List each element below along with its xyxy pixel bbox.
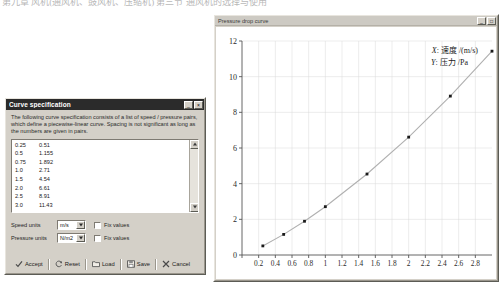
- pressure-drop-chart: 0246810120.20.40.60.811.21.41.61.822.22.…: [216, 27, 500, 283]
- y-axis-tick-label: 4: [233, 180, 237, 189]
- maximize-icon: □: [488, 18, 495, 24]
- pressure-fix-values-checkbox[interactable]: [94, 235, 101, 242]
- folder-icon: [92, 260, 100, 268]
- curve-specification-dialog: Curve specification _ × The following cu…: [4, 97, 206, 275]
- speed-pressure-list[interactable]: 0.250.510.51.1550.751.8921.02.711.54.542…: [11, 139, 199, 213]
- dialog-titlebar-buttons: _ ×: [184, 101, 203, 109]
- pressure-fix-values-wrap[interactable]: Fix values: [94, 235, 129, 242]
- chevron-up-icon: [193, 143, 197, 146]
- dialog-titlebar[interactable]: Curve specification _ ×: [6, 99, 204, 110]
- x-axis-tick-label: 1: [323, 259, 327, 268]
- dialog-body: The following curve specification consis…: [6, 110, 204, 273]
- cancel-button[interactable]: Cancel: [158, 258, 194, 270]
- pressure-drop-curve-window: Pressure drop curve _ □ 0246810120.20.40…: [213, 14, 499, 282]
- dialog-description: The following curve specification consis…: [11, 114, 199, 136]
- minimize-icon: _: [185, 102, 192, 108]
- pressure-units-row: Pressure units N/m2 Fix values: [11, 233, 199, 244]
- data-point-marker: [303, 220, 306, 223]
- pair-speed-value: 0.25: [15, 141, 39, 150]
- check-icon: [15, 260, 23, 268]
- chart-title: Pressure drop curve: [218, 18, 477, 24]
- list-item[interactable]: 1.02.71: [15, 166, 189, 175]
- data-point-marker: [366, 173, 369, 176]
- minimize-button[interactable]: _: [184, 101, 193, 109]
- y-axis-tick-label: 0: [233, 251, 237, 260]
- speed-units-row: Speed units m/s Fix values: [11, 220, 199, 231]
- x-axis-tick-label: 0.4: [271, 259, 281, 268]
- x-axis-tick-label: 1.6: [371, 259, 381, 268]
- pair-speed-value: 3.0: [15, 201, 39, 210]
- pair-pressure-value: 8.91: [39, 192, 79, 201]
- speed-pressure-rows: 0.250.510.51.1550.751.8921.02.711.54.542…: [12, 140, 189, 212]
- floppy-disk-icon: [127, 260, 135, 268]
- chevron-down-icon: [193, 206, 197, 209]
- list-item[interactable]: 0.250.51: [15, 141, 189, 150]
- pair-speed-value: 1.5: [15, 175, 39, 184]
- pressure-units-select[interactable]: N/m2: [57, 233, 86, 243]
- pair-speed-value: 1.0: [15, 166, 39, 175]
- x-axis-tick-label: 0.6: [287, 259, 297, 268]
- units-block: Speed units m/s Fix values Pressure unit…: [11, 220, 199, 244]
- x-axis-tick-label: 2.4: [437, 259, 447, 268]
- data-point-marker: [282, 233, 285, 236]
- curve-line: [263, 51, 492, 246]
- x-axis-tick-label: 0.8: [304, 259, 314, 268]
- speed-fix-values-wrap[interactable]: Fix values: [94, 222, 129, 229]
- close-button[interactable]: ×: [194, 101, 203, 109]
- save-button[interactable]: Save: [123, 258, 154, 270]
- speed-units-label: Speed units: [11, 222, 57, 228]
- list-scrollbar[interactable]: [189, 140, 198, 212]
- scroll-up-button[interactable]: [190, 140, 199, 149]
- data-point-marker: [491, 50, 494, 53]
- speed-units-select[interactable]: m/s: [57, 220, 86, 230]
- list-item[interactable]: 0.51.155: [15, 149, 189, 158]
- minimize-icon: _: [478, 18, 485, 24]
- accept-label: Accept: [25, 261, 43, 267]
- speed-fix-values-label: Fix values: [104, 222, 129, 228]
- chart-annotation-y: Y: 压力 /Pa: [431, 57, 468, 67]
- data-point-marker: [407, 136, 410, 139]
- speed-units-dropdown-button[interactable]: [76, 221, 85, 229]
- chart-titlebar[interactable]: Pressure drop curve _ □: [215, 16, 497, 26]
- page-header-scan-band: 第九章 风机(通风机、鼓风机、压缩机) 第三节 通风机的选择与使用: [0, 0, 503, 9]
- y-axis-tick-label: 6: [233, 144, 237, 153]
- speed-units-value: m/s: [58, 222, 76, 228]
- chart-titlebar-buttons: _ □: [477, 17, 496, 25]
- chart-annotation-x: X: 速度 /(m/s): [431, 45, 479, 55]
- y-axis-tick-label: 2: [233, 215, 237, 224]
- divider: [48, 259, 50, 270]
- list-item[interactable]: 2.06.61: [15, 184, 189, 193]
- x-axis-tick-label: 2.2: [421, 259, 431, 268]
- data-point-marker: [449, 95, 452, 98]
- pressure-units-dropdown-button[interactable]: [76, 234, 85, 242]
- list-item[interactable]: 0.751.892: [15, 158, 189, 167]
- load-button[interactable]: Load: [88, 258, 119, 270]
- refresh-icon: [55, 260, 63, 268]
- chart-minimize-button[interactable]: _: [477, 17, 486, 25]
- data-point-marker: [324, 205, 327, 208]
- list-item[interactable]: 2.58.91: [15, 192, 189, 201]
- list-item[interactable]: 3.011.43: [15, 201, 189, 210]
- x-axis-tick-label: 1.2: [337, 259, 347, 268]
- chart-maximize-button[interactable]: □: [487, 17, 496, 25]
- divider: [85, 259, 87, 270]
- close-icon: ×: [195, 102, 202, 108]
- dialog-button-bar: Accept Reset Load: [6, 258, 204, 270]
- accept-button[interactable]: Accept: [11, 258, 47, 270]
- pair-speed-value: 2.5: [15, 192, 39, 201]
- reset-button[interactable]: Reset: [51, 258, 84, 270]
- pressure-units-label: Pressure units: [11, 235, 57, 241]
- scroll-down-button[interactable]: [190, 203, 199, 212]
- list-item[interactable]: 1.54.54: [15, 175, 189, 184]
- speed-fix-values-checkbox[interactable]: [94, 222, 101, 229]
- save-label: Save: [137, 261, 150, 267]
- y-axis-tick-label: 10: [229, 73, 237, 82]
- pair-pressure-value: 11.43: [39, 201, 79, 210]
- x-axis-tick-label: 2.6: [454, 259, 464, 268]
- divider: [155, 259, 157, 270]
- chevron-down-icon: [79, 237, 83, 240]
- pair-pressure-value: 1.155: [39, 149, 79, 158]
- close-x-icon: [162, 260, 170, 268]
- load-label: Load: [102, 261, 115, 267]
- chevron-down-icon: [79, 224, 83, 227]
